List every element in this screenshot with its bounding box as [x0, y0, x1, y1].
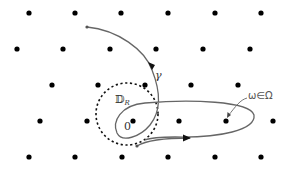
lattice-point	[26, 154, 31, 159]
gamma-end-point	[135, 144, 138, 147]
lattice-point	[14, 46, 19, 51]
lattice-diagram: γ 𝔻R 0 ω∈Ω	[0, 0, 291, 171]
gamma-start-point	[85, 25, 88, 28]
lattice-point	[176, 118, 181, 123]
lattice-point	[200, 46, 205, 51]
lattice-point	[119, 154, 124, 159]
disk-label-subscript: R	[124, 99, 131, 107]
gamma-arrow-lower	[183, 135, 191, 142]
gamma-arrow-upper	[148, 62, 155, 70]
disk-label-main: 𝔻	[115, 93, 125, 106]
lattice-point	[235, 82, 240, 87]
lattice-point	[118, 10, 123, 15]
lattice-point	[165, 154, 170, 159]
lattice-point	[60, 46, 65, 51]
lattice-points	[14, 10, 275, 159]
lattice-point	[247, 46, 252, 51]
lattice-point	[212, 10, 217, 15]
lattice-point	[223, 118, 228, 123]
lattice-point	[37, 118, 42, 123]
disk-label: 𝔻R	[115, 93, 131, 107]
gamma-upper-arc	[87, 27, 152, 70]
lattice-point	[49, 82, 54, 87]
lattice-point	[72, 10, 77, 15]
lattice-point	[26, 10, 31, 15]
lattice-point	[165, 10, 170, 15]
lattice-point	[107, 46, 112, 51]
lattice-point	[212, 154, 217, 159]
lattice-point	[95, 82, 100, 87]
lattice-point	[142, 82, 147, 87]
gamma-label: γ	[155, 69, 162, 82]
omega-label: ω∈Ω	[248, 90, 273, 101]
lattice-point	[130, 118, 135, 123]
lattice-point	[84, 118, 89, 123]
lattice-point	[72, 154, 77, 159]
gamma-middle	[116, 70, 254, 140]
lattice-point	[270, 118, 275, 123]
lattice-point	[258, 10, 263, 15]
disk-boundary	[96, 83, 158, 145]
lattice-point	[188, 82, 193, 87]
lattice-point	[153, 46, 158, 51]
origin-label: 0	[124, 120, 131, 133]
lattice-point	[258, 154, 263, 159]
